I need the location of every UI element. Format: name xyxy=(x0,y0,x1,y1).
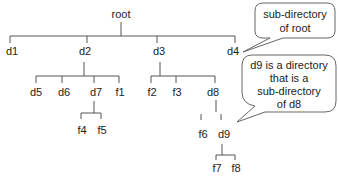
callout-d9-line-4: of d8 xyxy=(277,98,301,110)
callout-d9-line-1: d9 is a directory xyxy=(250,59,328,71)
node-f6: f6 xyxy=(198,128,207,140)
node-d8: d8 xyxy=(207,86,219,98)
callout-d9-line-3: sub-directory xyxy=(257,85,321,97)
node-d2: d2 xyxy=(79,45,91,57)
callout-d4: sub-directory of root xyxy=(243,3,335,52)
callout-d9-line-2: that is a xyxy=(270,72,309,84)
node-f4: f4 xyxy=(77,124,86,136)
node-f2: f2 xyxy=(147,86,156,98)
node-d6: d6 xyxy=(58,86,70,98)
node-d9: d9 xyxy=(218,128,230,140)
node-d5: d5 xyxy=(30,86,42,98)
directory-tree-diagram: root d1 d2 d3 d4 d5 d6 d7 f1 f2 f3 d8 f4… xyxy=(0,0,338,177)
callout-d4-line-1: sub-directory xyxy=(263,8,327,20)
node-d1: d1 xyxy=(6,45,18,57)
node-f5: f5 xyxy=(97,124,106,136)
node-root: root xyxy=(112,8,131,20)
callout-d9: d9 is a directory that is a sub-director… xyxy=(237,55,336,122)
node-d4: d4 xyxy=(227,45,239,57)
tree-nodes: root d1 d2 d3 d4 d5 d6 d7 f1 f2 f3 d8 f4… xyxy=(6,8,241,174)
node-f1: f1 xyxy=(115,86,124,98)
node-f7: f7 xyxy=(212,162,221,174)
node-f8: f8 xyxy=(231,162,240,174)
node-f3: f3 xyxy=(172,86,181,98)
node-d7: d7 xyxy=(90,86,102,98)
callout-d4-line-2: of root xyxy=(279,22,310,34)
node-d3: d3 xyxy=(153,45,165,57)
